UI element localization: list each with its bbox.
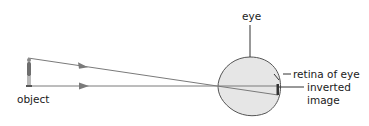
arrowhead-icon [79, 83, 89, 90]
inverted-image-label-line1: inverted [307, 81, 351, 93]
object-figure-icon [26, 58, 32, 87]
inverted-image-label-line2: image [307, 94, 340, 106]
object-label: object [17, 93, 49, 105]
arrowhead-icon [78, 62, 88, 69]
retina-label: retina of eye [293, 68, 360, 80]
inverted-image-mark [277, 84, 280, 95]
eye-ray-diagram [0, 0, 369, 126]
eye-label: eye [242, 10, 261, 22]
